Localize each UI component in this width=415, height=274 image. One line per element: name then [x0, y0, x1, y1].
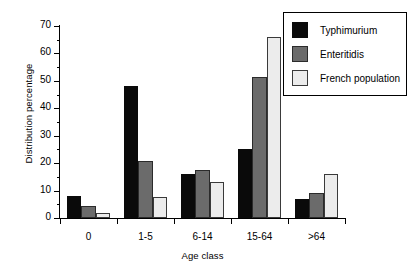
- y-tick-label: 10: [40, 184, 51, 195]
- y-tick-label: 50: [40, 74, 51, 85]
- x-tick-mark: [60, 219, 61, 224]
- legend-swatch-icon: [292, 70, 308, 86]
- bar-enteritidis-0: [81, 206, 96, 218]
- legend-item-enteritidis: Enteritidis: [292, 45, 364, 63]
- chart-legend: TyphimuriumEnteritidisFrench population: [283, 12, 407, 96]
- bar-enteritidis--64: [309, 193, 324, 218]
- y-tick-label: 30: [40, 129, 51, 140]
- bar-enteritidis-1-5: [138, 161, 153, 218]
- bar-typhimurium-0: [67, 196, 82, 218]
- y-tick-label: 40: [40, 101, 51, 112]
- bar-typhimurium-6-14: [181, 174, 196, 218]
- bar-french-population-15-64: [267, 37, 282, 218]
- legend-item-french-population: French population: [292, 69, 400, 87]
- x-tick-label: >64: [277, 231, 357, 242]
- bar-chart-figure: Distribution percentage 010203040506070 …: [0, 0, 415, 274]
- x-axis-line: [59, 218, 346, 219]
- bar-typhimurium-1-5: [124, 86, 139, 218]
- bar-french-population-0: [96, 213, 111, 218]
- x-tick-mark: [117, 219, 118, 224]
- bar-typhimurium-15-64: [238, 149, 253, 218]
- legend-label: Typhimurium: [320, 25, 377, 36]
- y-tick-label: 60: [40, 46, 51, 57]
- bar-enteritidis-6-14: [195, 170, 210, 218]
- x-tick-mark: [174, 219, 175, 224]
- legend-swatch-icon: [292, 46, 308, 62]
- bar-french-population-1-5: [153, 197, 168, 218]
- legend-swatch-icon: [292, 22, 308, 38]
- bar-enteritidis-15-64: [252, 77, 267, 218]
- legend-label: French population: [320, 73, 400, 84]
- y-tick-label: 0: [45, 211, 51, 222]
- y-tick-label: 70: [40, 19, 51, 30]
- legend-label: Enteritidis: [320, 49, 364, 60]
- legend-item-typhimurium: Typhimurium: [292, 21, 377, 39]
- x-axis-title: Age class: [60, 250, 345, 261]
- x-tick-mark: [288, 219, 289, 224]
- bar-typhimurium--64: [295, 199, 310, 218]
- bar-french-population--64: [324, 174, 339, 218]
- bar-french-population-6-14: [210, 182, 225, 218]
- x-tick-mark: [231, 219, 232, 224]
- x-tick-mark: [345, 219, 346, 224]
- y-tick-label: 20: [40, 156, 51, 167]
- y-axis-title: Distribution percentage: [23, 19, 34, 209]
